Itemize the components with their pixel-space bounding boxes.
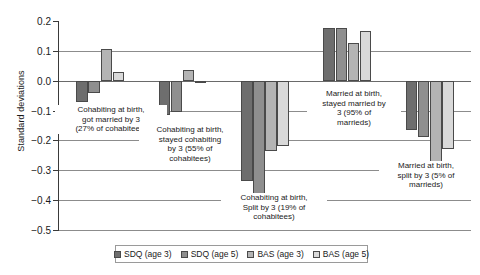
chart-legend: SDQ (age 3)SDQ (age 5)BAS (age 3)BAS (ag…: [115, 245, 368, 263]
bar[interactable]: [336, 28, 348, 80]
y-axis-title: Standard deviations: [16, 41, 26, 181]
legend-swatch-icon: [181, 251, 188, 258]
category-annotation: Married at birth,split by 3 (5% ofmarrie…: [379, 161, 473, 190]
bar[interactable]: [76, 81, 88, 102]
category-annotation: Cohabiting at birth,stayed cohabitingby …: [139, 125, 241, 163]
y-tick-label: −0.1: [31, 105, 51, 116]
gridline--0.5: [59, 230, 471, 231]
bar[interactable]: [430, 81, 442, 174]
bar[interactable]: [323, 28, 335, 80]
bar[interactable]: [113, 72, 125, 80]
legend-item[interactable]: SDQ (age 5): [181, 249, 239, 259]
y-tick-label: −0.5: [31, 225, 51, 236]
bar[interactable]: [360, 31, 372, 80]
bar[interactable]: [183, 70, 195, 80]
legend-label: SDQ (age 5): [191, 249, 239, 259]
plot-area: 0.20.10.0−0.1−0.2−0.3−0.4−0.5 Cohabiting…: [58, 21, 470, 230]
bar-chart-figure: Standard deviations 0.20.10.0−0.1−0.2−0.…: [0, 0, 480, 275]
y-tick-mark: [53, 230, 59, 231]
legend-item[interactable]: BAS (age 3): [247, 249, 303, 259]
y-tick-label: −0.3: [31, 165, 51, 176]
bar[interactable]: [406, 81, 418, 130]
legend-label: SDQ (age 3): [124, 249, 172, 259]
bar[interactable]: [277, 81, 289, 147]
bar[interactable]: [241, 81, 253, 181]
legend-swatch-icon: [313, 251, 320, 258]
bar[interactable]: [418, 81, 430, 138]
y-tick-label: 0.1: [37, 45, 51, 56]
category-annotation: Cohabiting at birth,Split by 3 (19% ofco…: [221, 193, 327, 222]
legend-label: BAS (age 5): [323, 249, 369, 259]
y-tick-label: −0.4: [31, 195, 51, 206]
bar[interactable]: [442, 81, 454, 150]
bar[interactable]: [171, 81, 183, 112]
bar[interactable]: [101, 49, 113, 80]
legend-item[interactable]: BAS (age 5): [313, 249, 369, 259]
bar[interactable]: [88, 81, 100, 93]
legend-swatch-icon: [247, 251, 254, 258]
bar[interactable]: [195, 81, 207, 83]
y-tick-label: 0.2: [37, 16, 51, 27]
y-tick-label: 0.0: [37, 75, 51, 86]
legend-swatch-icon: [114, 251, 121, 258]
category-annotation: Married at birth,stayed married by3 (95%…: [307, 89, 401, 127]
bar[interactable]: [265, 81, 277, 151]
legend-item[interactable]: SDQ (age 3): [114, 249, 172, 259]
y-tick-label: −0.2: [31, 135, 51, 146]
bar[interactable]: [253, 81, 265, 194]
bar[interactable]: [348, 43, 360, 80]
legend-label: BAS (age 3): [257, 249, 303, 259]
